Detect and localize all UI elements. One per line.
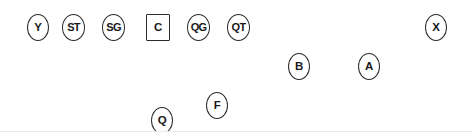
- player-marker-a[interactable]: A: [358, 53, 380, 80]
- player-label: A: [365, 60, 373, 72]
- player-label: F: [214, 99, 221, 111]
- player-label: C: [154, 21, 162, 33]
- player-label: QT: [232, 22, 246, 33]
- player-label: Q: [158, 114, 167, 126]
- player-marker-b[interactable]: B: [288, 53, 310, 80]
- player-marker-c[interactable]: C: [146, 14, 170, 41]
- player-marker-x[interactable]: X: [425, 14, 447, 41]
- player-label: QG: [191, 22, 207, 33]
- player-label: Y: [34, 21, 41, 33]
- player-marker-q[interactable]: Q: [151, 107, 173, 132]
- player-label: B: [295, 60, 303, 72]
- player-marker-qg[interactable]: QG: [187, 14, 210, 41]
- player-marker-qt[interactable]: QT: [227, 14, 250, 41]
- player-label: ST: [67, 22, 80, 33]
- player-marker-f[interactable]: F: [206, 92, 228, 119]
- formation-diagram-canvas: YSTSGCQGQTXBAFQ: [0, 0, 472, 132]
- player-marker-sg[interactable]: SG: [102, 14, 125, 41]
- player-label: X: [432, 21, 439, 33]
- player-label: SG: [106, 22, 121, 33]
- player-marker-st[interactable]: ST: [62, 14, 85, 41]
- player-marker-y[interactable]: Y: [27, 14, 49, 41]
